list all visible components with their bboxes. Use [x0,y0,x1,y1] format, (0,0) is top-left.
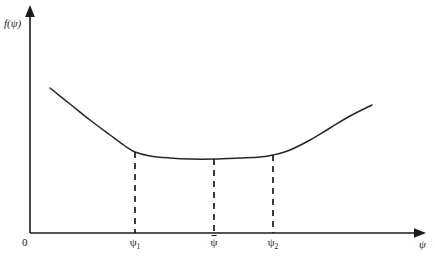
origin-label: 0 [22,237,28,248]
x-axis-label: ψ [419,239,426,250]
tick-label-psi-2: ψ2 [268,236,279,251]
dashed-verticals-group [135,152,273,233]
tick-label-psi-bar: ψ [211,236,218,248]
y-axis-label: f(ψ) [4,18,21,29]
tick-label-psi-1: ψ1 [130,236,141,251]
plot-canvas [0,0,435,257]
function-curve [50,88,372,159]
y-axis-arrowhead [25,5,35,17]
figure-container: f(ψ) ψ 0 ψ1ψψ2 [0,0,435,257]
x-axis-arrowhead [414,228,426,238]
